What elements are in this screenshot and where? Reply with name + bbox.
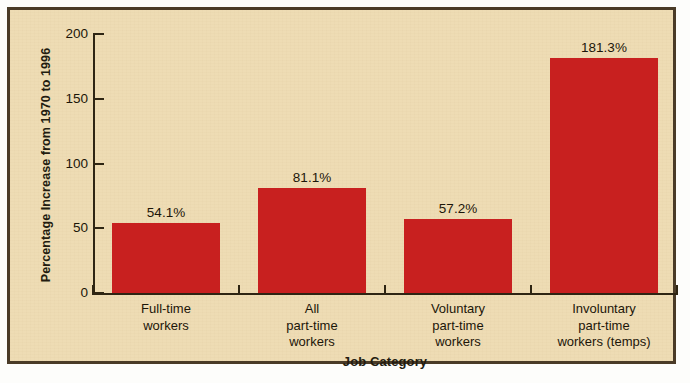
category-label-line: workers [239, 334, 385, 351]
bar[interactable] [404, 219, 512, 293]
x-axis-tick [92, 285, 94, 295]
bar-chart-figure: Percentage Increase from 1970 to 1996 05… [0, 0, 690, 383]
bar[interactable] [258, 188, 366, 293]
y-axis-tick-label-text: 100 [48, 157, 88, 171]
category-label-line: workers [385, 334, 531, 351]
category-label-line: part-time [531, 318, 677, 335]
category-label-line: part-time [385, 318, 531, 335]
y-axis-line [93, 34, 95, 295]
x-axis-tick [676, 285, 678, 295]
bar-value-label: 57.2% [398, 202, 518, 216]
category-label-line: Full-time [93, 301, 239, 318]
y-axis-tick-label-text: 200 [48, 27, 88, 41]
x-axis-category-label: Involuntarypart-timeworkers (temps) [531, 301, 677, 351]
x-axis-category-label: Allpart-timeworkers [239, 301, 385, 351]
x-axis-tick [384, 285, 386, 295]
y-axis-tick-label-text: 0 [48, 286, 88, 300]
category-label-line: Involuntary [531, 301, 677, 318]
chart-plate: Percentage Increase from 1970 to 1996 05… [7, 7, 676, 364]
y-axis-tick-label: 200 [32, 27, 88, 41]
bar-value-label: 181.3% [544, 41, 664, 55]
y-axis-tick [93, 98, 104, 100]
category-label-line: part-time [239, 318, 385, 335]
category-label-line: workers (temps) [531, 334, 677, 351]
x-axis-tick [238, 285, 240, 295]
bar-value-label: 81.1% [252, 171, 372, 185]
x-axis-title: Job Category [93, 354, 677, 369]
x-axis-category-label: Full-timeworkers [93, 301, 239, 334]
y-axis-tick-label-text: 150 [48, 92, 88, 106]
y-axis-tick-label: 0 [32, 286, 88, 300]
y-axis-tick-label-text: 50 [48, 221, 88, 235]
y-axis-tick [93, 33, 104, 35]
category-label-line: Voluntary [385, 301, 531, 318]
y-axis-tick [93, 227, 104, 229]
y-axis-tick-label: 150 [32, 92, 88, 106]
category-label-line: All [239, 301, 385, 318]
bar[interactable] [550, 58, 658, 293]
y-axis-tick [93, 292, 104, 294]
x-axis-category-label: Voluntarypart-timeworkers [385, 301, 531, 351]
bar-value-label: 54.1% [106, 206, 226, 220]
x-axis-tick [530, 285, 532, 295]
y-axis-tick-label: 50 [32, 221, 88, 235]
y-axis-tick [93, 163, 104, 165]
y-axis-tick-label: 100 [32, 157, 88, 171]
category-label-line: workers [93, 318, 239, 335]
bar[interactable] [112, 223, 220, 293]
